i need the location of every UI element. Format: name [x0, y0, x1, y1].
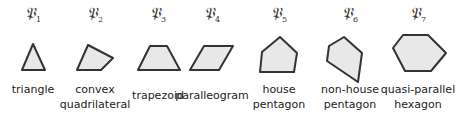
symbol-letter: 𝔓 [150, 4, 161, 22]
polygon-shape-7 [393, 35, 446, 71]
symbol-index: 5 [282, 15, 287, 24]
label-line: hexagon [381, 97, 455, 112]
polygon-symbol-5: 𝔓5 [271, 4, 287, 24]
symbol-index: 2 [98, 15, 103, 24]
polygon-symbol-3: 𝔓3 [150, 4, 166, 24]
polygon-label-1: triangle [12, 82, 54, 97]
label-line: pentagon [321, 97, 379, 112]
polygon-shape-5 [260, 37, 297, 72]
symbol-letter: 𝔓 [25, 4, 36, 22]
polygon-shape-3 [138, 46, 180, 70]
symbol-letter: 𝔓 [271, 4, 282, 22]
polygon-label-5: housepentagon [253, 82, 305, 112]
symbol-letter: 𝔓 [204, 4, 215, 22]
polygon-symbol-6: 𝔓6 [342, 4, 358, 24]
label-line: paralleogram [175, 88, 249, 103]
polygon-label-4: paralleogram [175, 88, 249, 103]
symbol-index: 6 [353, 15, 358, 24]
polygon-label-6: non-housepentagon [321, 82, 379, 112]
polygon-shape-4 [190, 46, 233, 70]
polygon-shape-6 [327, 37, 362, 82]
label-line: pentagon [253, 97, 305, 112]
label-line: convex [60, 82, 130, 97]
polygon-shape-1 [22, 44, 45, 70]
label-line: quasi-parallel [381, 82, 455, 97]
label-line: house [253, 82, 305, 97]
label-line: non-house [321, 82, 379, 97]
polygon-symbol-7: 𝔓7 [410, 4, 426, 24]
symbol-letter: 𝔓 [87, 4, 98, 22]
polygon-label-7: quasi-parallelhexagon [381, 82, 455, 112]
label-line: triangle [12, 82, 54, 97]
symbol-index: 3 [161, 15, 166, 24]
polygon-symbol-4: 𝔓4 [204, 4, 220, 24]
symbol-letter: 𝔓 [342, 4, 353, 22]
polygon-symbol-2: 𝔓2 [87, 4, 103, 24]
polygon-symbol-1: 𝔓1 [25, 4, 41, 24]
symbol-letter: 𝔓 [410, 4, 421, 22]
symbol-index: 7 [421, 15, 426, 24]
symbol-index: 4 [215, 15, 220, 24]
polygon-label-2: convexquadrilateral [60, 82, 130, 112]
symbol-index: 1 [36, 15, 41, 24]
polygon-shape-2 [77, 45, 113, 70]
label-line: quadrilateral [60, 97, 130, 112]
